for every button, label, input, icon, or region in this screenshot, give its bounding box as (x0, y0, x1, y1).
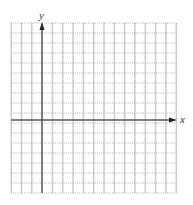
grid-lines (11, 23, 177, 193)
grid-graph-paper (0, 0, 193, 205)
x-axis-label: x (180, 114, 185, 125)
y-axis-label: y (39, 10, 44, 21)
coordinate-plane: y x (0, 0, 193, 205)
